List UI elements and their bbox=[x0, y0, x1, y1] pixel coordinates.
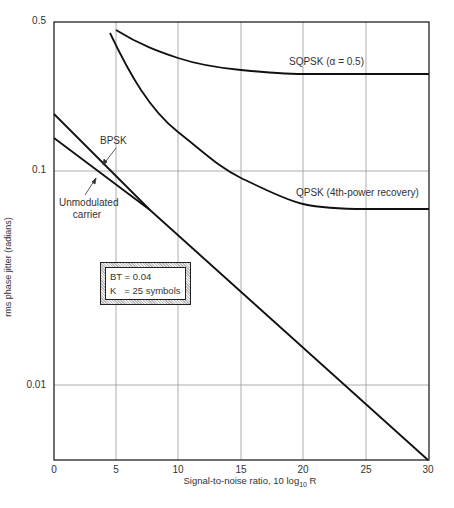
label-unmodulated-line1: Unmodulated bbox=[59, 197, 118, 208]
plot-canvas bbox=[0, 0, 454, 508]
series-qpsk bbox=[110, 33, 429, 209]
x-tick-25: 25 bbox=[354, 464, 378, 475]
label-bpsk: BPSK bbox=[100, 135, 127, 146]
series-bpsk bbox=[54, 114, 150, 210]
plot-frame bbox=[54, 22, 429, 460]
label-unmodulated-line2: carrier bbox=[73, 209, 101, 220]
label-qpsk: QPSK (4th-power recovery) bbox=[296, 187, 419, 198]
x-axis-label-text: Signal-to-noise ratio, 10 log bbox=[184, 475, 300, 486]
series-sqpsk bbox=[116, 30, 429, 74]
x-axis-label: Signal-to-noise ratio, 10 log10 R bbox=[150, 475, 350, 488]
x-tick-5: 5 bbox=[104, 464, 128, 475]
x-tick-10: 10 bbox=[166, 464, 190, 475]
x-tick-20: 20 bbox=[291, 464, 315, 475]
y-axis-label: rms phase jitter (radians) bbox=[3, 215, 13, 319]
parameter-legend: BT = 0.04 K = 25 symbols bbox=[100, 262, 191, 305]
x-tick-0: 0 bbox=[42, 464, 66, 475]
y-tick-0.01: 0.01 bbox=[6, 379, 46, 390]
label-unmodulated-carrier: Unmodulatedcarrier bbox=[59, 197, 115, 221]
grid bbox=[54, 22, 429, 460]
parameter-legend-inner: BT = 0.04 K = 25 symbols bbox=[105, 267, 186, 300]
legend-k: K = 25 symbols bbox=[110, 284, 181, 298]
y-tick-0.5: 0.5 bbox=[6, 15, 46, 26]
legend-bt: BT = 0.04 bbox=[110, 270, 181, 284]
label-sqpsk: SQPSK (α = 0.5) bbox=[289, 56, 364, 67]
x-tick-30: 30 bbox=[416, 464, 440, 475]
y-tick-0.1: 0.1 bbox=[6, 164, 46, 175]
x-axis-label-subscript: 10 bbox=[299, 481, 307, 488]
x-tick-15: 15 bbox=[229, 464, 253, 475]
x-axis-label-tail: R bbox=[307, 475, 317, 486]
